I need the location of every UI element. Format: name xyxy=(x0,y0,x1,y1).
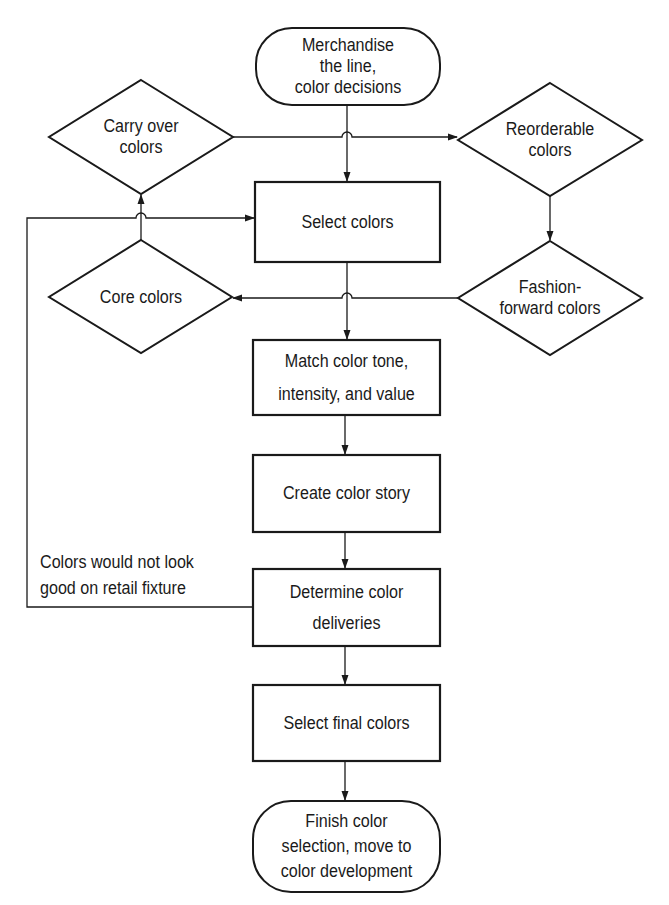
select-colors-label: Select colors xyxy=(262,182,432,262)
match-label: Match color tone, intensity, and value xyxy=(260,340,432,415)
deliveries-line-2: deliveries xyxy=(312,608,380,639)
loop-label: Colors would not look good on retail fix… xyxy=(40,551,194,599)
match-line-1: Match color tone, xyxy=(285,345,408,378)
finish-line-2: selection, move to xyxy=(282,834,412,859)
loop-label-line-1: Colors would not look xyxy=(40,551,194,573)
core-colors-text: Core colors xyxy=(100,287,182,308)
start-line-1: Merchandise xyxy=(302,35,394,56)
select-colors-text: Select colors xyxy=(301,212,393,233)
fashion-line-1: Fashion- xyxy=(519,277,582,298)
carry-over-label: Carry over colors xyxy=(66,112,215,162)
reorderable-line-1: Reorderable xyxy=(506,119,595,140)
match-line-2: intensity, and value xyxy=(278,378,415,411)
story-text: Create color story xyxy=(283,483,410,504)
start-terminal-label: Merchandise the line, color decisions xyxy=(263,30,432,103)
core-colors-label: Core colors xyxy=(66,284,215,310)
start-line-3: color decisions xyxy=(295,77,401,98)
carry-over-line-2: colors xyxy=(120,137,163,158)
reorderable-label: Reorderable colors xyxy=(475,115,624,165)
carry-over-line-1: Carry over xyxy=(103,116,178,137)
fashion-forward-label: Fashion- forward colors xyxy=(469,273,631,323)
finish-line-3: color development xyxy=(281,859,413,884)
final-label: Select final colors xyxy=(260,685,432,761)
loop-label-line-2: good on retail fixture xyxy=(40,577,194,599)
deliveries-label: Determine color deliveries xyxy=(260,569,432,646)
story-label: Create color story xyxy=(260,455,432,532)
deliveries-line-1: Determine color xyxy=(290,577,404,608)
final-text: Select final colors xyxy=(283,713,409,734)
finish-line-1: Finish color xyxy=(305,809,387,834)
fashion-line-2: forward colors xyxy=(499,298,600,319)
reorderable-line-2: colors xyxy=(529,140,572,161)
start-line-2: the line, xyxy=(320,56,376,77)
finish-terminal-label: Finish color selection, move to color de… xyxy=(260,803,432,890)
